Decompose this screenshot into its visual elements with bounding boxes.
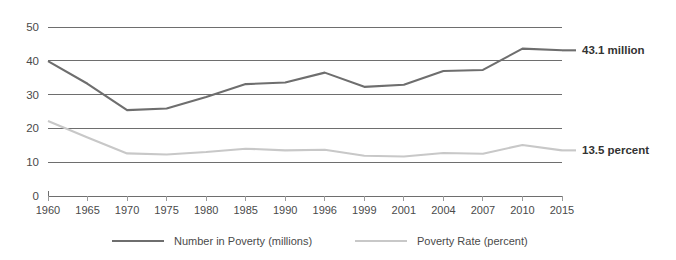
x-tick-label-2010: 2010	[510, 204, 534, 216]
x-tick-label-1990: 1990	[273, 204, 297, 216]
x-axis-tick-labels: 1960196519701975198019851990199619992001…	[36, 204, 574, 216]
x-tick-label-1960: 1960	[36, 204, 60, 216]
x-tick-label-2001: 2001	[392, 204, 416, 216]
x-axis-tickmarks	[48, 196, 562, 201]
y-tick-label-30: 30	[26, 89, 39, 101]
chart-canvas: 50403020100 1960196519701975198019851990…	[0, 0, 676, 260]
series-line-number-in-poverty	[48, 49, 562, 111]
x-tick-label-1975: 1975	[154, 204, 178, 216]
y-tick-label-20: 20	[26, 122, 39, 134]
end-label-number-in-poverty: 43.1 million	[582, 44, 645, 56]
poverty-line-chart: 50403020100 1960196519701975198019851990…	[0, 0, 676, 260]
gridlines-group	[48, 27, 562, 196]
x-tick-label-1970: 1970	[115, 204, 139, 216]
x-tick-label-2015: 2015	[550, 204, 574, 216]
series-end-labels: 43.1 million13.5 percent	[562, 44, 649, 156]
x-tick-label-1965: 1965	[75, 204, 99, 216]
x-tick-label-2007: 2007	[471, 204, 495, 216]
y-axis-tick-labels: 50403020100	[26, 21, 39, 202]
x-tick-label-1985: 1985	[233, 204, 257, 216]
y-tick-label-50: 50	[26, 21, 39, 33]
end-label-poverty-rate: 13.5 percent	[582, 144, 649, 156]
y-tick-label-40: 40	[26, 55, 39, 67]
y-tick-label-0: 0	[33, 190, 39, 202]
x-tick-label-1999: 1999	[352, 204, 376, 216]
series-lines-group	[48, 49, 562, 157]
legend-label-number-in-poverty: Number in Poverty (millions)	[174, 235, 312, 247]
y-tick-label-10: 10	[26, 156, 39, 168]
x-tick-label-1980: 1980	[194, 204, 218, 216]
x-tick-label-2004: 2004	[431, 204, 455, 216]
legend-label-poverty-rate: Poverty Rate (percent)	[417, 235, 528, 247]
x-tick-label-1996: 1996	[313, 204, 337, 216]
series-line-poverty-rate	[48, 121, 562, 156]
chart-legend: Number in Poverty (millions)Poverty Rate…	[112, 235, 528, 247]
